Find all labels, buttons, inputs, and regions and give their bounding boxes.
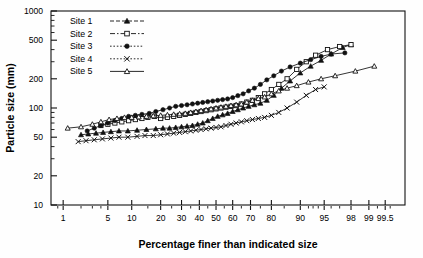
- data-point-open-square: [313, 53, 317, 57]
- x-axis-title: Percentage finer than indicated size: [138, 238, 317, 250]
- data-point-filled-circle: [161, 108, 165, 112]
- data-point-cross-x: [269, 113, 274, 118]
- data-point-filled-circle: [279, 69, 283, 73]
- data-point-filled-circle: [309, 58, 313, 62]
- data-point-filled-circle: [343, 51, 347, 55]
- legend-label-2: Site 2: [70, 29, 93, 39]
- y-axis-title: Particle size (mm): [4, 63, 16, 152]
- series-line: [68, 66, 375, 128]
- data-point-filled-circle: [154, 109, 158, 113]
- data-point-open-triangle: [79, 124, 84, 128]
- data-point-filled-circle: [247, 89, 251, 93]
- data-point-filled-triangle: [308, 64, 313, 69]
- data-point-open-triangle: [183, 111, 188, 116]
- data-point-open-triangle: [294, 83, 299, 88]
- data-point-filled-circle: [125, 44, 130, 49]
- data-point-cross-x: [276, 110, 281, 115]
- x-tick-label: 95: [319, 213, 329, 223]
- data-point-open-triangle: [353, 69, 358, 74]
- data-point-open-square: [277, 82, 281, 86]
- chart-legend: Site 1Site 2Site 3Site 4Site 5: [70, 16, 144, 76]
- data-point-open-square: [325, 47, 329, 51]
- y-tick-label: 20: [33, 171, 43, 181]
- data-point-open-triangle: [107, 117, 112, 122]
- data-point-open-triangle: [234, 102, 239, 107]
- data-point-filled-circle: [329, 52, 333, 56]
- data-point-filled-circle: [196, 101, 200, 105]
- legend-label-4: Site 4: [70, 54, 93, 64]
- data-point-open-triangle: [306, 80, 311, 85]
- data-point-filled-circle: [211, 99, 215, 103]
- x-axis-ticks: 1510203040506070809095989999.5: [58, 200, 394, 223]
- data-point-open-triangle: [214, 106, 219, 111]
- x-tick-label: 99: [364, 213, 374, 223]
- data-point-open-triangle: [188, 110, 193, 115]
- legend-label-3: Site 3: [70, 41, 93, 51]
- x-tick-label: 50: [211, 213, 221, 223]
- data-point-filled-triangle: [205, 118, 210, 123]
- x-tick-label: 1: [61, 213, 66, 223]
- data-point-filled-circle: [147, 111, 151, 115]
- data-point-filled-circle: [167, 106, 171, 110]
- data-point-open-square: [125, 31, 130, 36]
- data-point-open-triangle: [165, 112, 170, 117]
- data-point-open-triangle: [223, 104, 228, 109]
- x-tick-label: 70: [246, 213, 256, 223]
- chart-figure: 1000500200100502010 15102030405060708090…: [0, 0, 423, 258]
- data-point-filled-circle: [190, 102, 194, 106]
- legend-label-5: Site 5: [70, 66, 93, 76]
- data-point-open-triangle: [204, 107, 209, 112]
- x-tick-label: 40: [195, 213, 205, 223]
- x-tick-label: 80: [267, 213, 277, 223]
- data-point-cross-x: [294, 100, 299, 105]
- data-point-filled-circle: [258, 82, 262, 86]
- y-tick-label: 1000: [24, 6, 43, 16]
- data-point-open-triangle: [228, 103, 233, 108]
- data-point-filled-circle: [179, 103, 183, 107]
- data-point-open-triangle: [90, 122, 95, 127]
- data-point-filled-circle: [241, 92, 245, 96]
- series-line: [78, 87, 324, 142]
- series-site-4: [76, 84, 327, 144]
- data-point-open-triangle: [199, 108, 204, 113]
- y-tick-label: 200: [29, 74, 44, 84]
- data-point-open-triangle: [171, 112, 176, 117]
- data-point-open-triangle: [372, 64, 377, 69]
- y-tick-label: 10: [33, 200, 43, 210]
- legend-label-1: Site 1: [70, 16, 93, 26]
- y-axis-ticks: 1000500200100502010: [24, 6, 57, 210]
- data-point-open-triangle: [114, 116, 119, 121]
- y-tick-label: 100: [29, 103, 44, 113]
- data-point-open-square: [295, 67, 299, 71]
- data-point-filled-circle: [288, 65, 292, 69]
- data-point-filled-triangle: [210, 116, 215, 121]
- data-point-filled-circle: [252, 86, 256, 90]
- data-point-filled-circle: [265, 78, 269, 82]
- data-point-open-triangle: [218, 105, 223, 110]
- x-tick-label: 20: [156, 213, 166, 223]
- x-tick-label: 30: [177, 213, 187, 223]
- x-tick-label: 99.5: [377, 213, 394, 223]
- data-point-cross-x: [223, 123, 228, 128]
- data-point-filled-circle: [220, 97, 224, 101]
- data-point-filled-circle: [272, 74, 276, 78]
- y-tick-label: 50: [33, 132, 43, 142]
- data-point-open-square: [349, 43, 353, 47]
- data-point-filled-circle: [236, 94, 240, 98]
- data-point-filled-circle: [201, 100, 205, 104]
- data-point-open-triangle: [158, 113, 163, 118]
- y-tick-label: 500: [29, 35, 44, 45]
- series-site-5: [65, 64, 377, 130]
- data-series-layer: [65, 42, 377, 144]
- x-tick-label: 60: [228, 213, 238, 223]
- data-point-open-triangle: [98, 119, 103, 124]
- x-tick-label: 98: [346, 213, 356, 223]
- data-point-filled-circle: [206, 100, 210, 104]
- data-point-cross-x: [304, 93, 309, 98]
- data-point-open-square: [285, 77, 289, 81]
- x-tick-label: 10: [127, 213, 137, 223]
- data-point-filled-circle: [174, 104, 178, 108]
- x-tick-label: 90: [296, 213, 306, 223]
- data-point-filled-circle: [85, 129, 89, 133]
- data-point-cross-x: [285, 106, 290, 111]
